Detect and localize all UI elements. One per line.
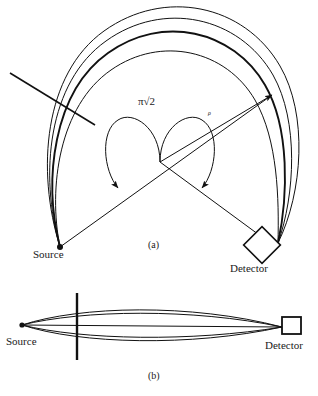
detector-rect-b [282, 317, 301, 334]
source-point-b [19, 322, 24, 327]
panel-b [19, 293, 301, 360]
detector-label-a: Detector [230, 263, 268, 274]
detector-label-b: Detector [265, 340, 303, 351]
figure-container: Source Detector π√2 ρ (a) Source Detecto… [0, 0, 318, 396]
middle-arc [52, 31, 284, 247]
lens-upper-outer [22, 310, 282, 327]
lens-axis [22, 325, 282, 327]
caption-a: (a) [148, 240, 159, 250]
outer-arc-2 [50, 18, 292, 247]
source-label-b: Source [6, 336, 37, 347]
inner-arc [56, 51, 279, 247]
source-ray [60, 95, 272, 247]
detector-square-a [244, 227, 281, 264]
caption-b: (b) [148, 371, 160, 381]
figure-vector-layer [0, 0, 318, 396]
small-inner-arc-right [160, 117, 214, 188]
detector-ray [160, 162, 266, 240]
radius-arrow [160, 95, 272, 162]
radius-label: ρ [208, 110, 211, 116]
source-label-a: Source [33, 249, 64, 260]
small-inner-arc-left [106, 117, 160, 188]
panel-a [10, 7, 299, 264]
arc-length-label: π√2 [138, 96, 155, 107]
